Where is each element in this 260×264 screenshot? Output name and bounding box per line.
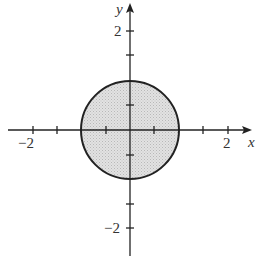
y-tick-label-2: 2 xyxy=(114,23,122,39)
x-axis-label: x xyxy=(247,134,255,150)
x-tick-label-2: 2 xyxy=(223,135,231,151)
x-tick-label-neg2: −2 xyxy=(18,135,34,151)
y-tick-label-neg2: −2 xyxy=(104,220,120,236)
disk-diagram: x y −2 2 2 −2 xyxy=(0,0,260,264)
y-axis-label: y xyxy=(114,1,123,17)
